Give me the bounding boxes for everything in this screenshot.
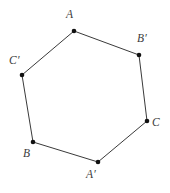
vertex-point <box>20 73 25 78</box>
vertex-point <box>96 160 101 165</box>
hexagon-edge <box>74 31 139 55</box>
vertex-point <box>31 140 36 145</box>
hexagon-edge <box>22 75 33 142</box>
vertex-label: B <box>23 148 30 160</box>
vertex-point <box>72 29 77 34</box>
vertex-point <box>145 119 150 124</box>
vertex-point <box>137 53 142 58</box>
vertex-label: C′ <box>9 55 20 67</box>
hexagon-edge <box>33 142 98 162</box>
hexagon-edge <box>22 31 74 75</box>
vertex-label: A′ <box>86 169 96 181</box>
vertex-label: B′ <box>137 33 147 45</box>
vertex-label: C <box>152 117 160 129</box>
hexagon-edge <box>139 55 147 121</box>
hexagon-drawing <box>0 0 170 193</box>
hexagon-edge-group <box>22 31 147 162</box>
hexagon-edge <box>98 121 147 162</box>
vertex-label: A <box>66 9 73 21</box>
geometry-figure-canvas: AB′CA′BC′ <box>0 0 170 193</box>
